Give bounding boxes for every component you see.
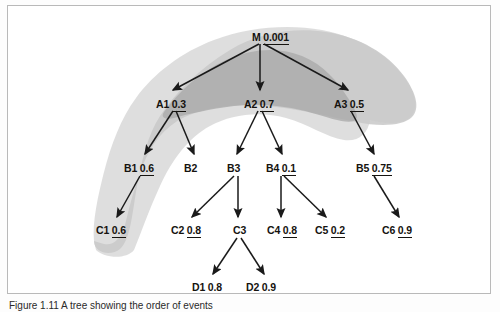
tree-node-m-label: M <box>252 31 261 43</box>
tree-node-b2-label: B2 <box>184 162 197 174</box>
tree-node-b5-value: 0.75 <box>372 162 392 176</box>
figure-frame: M0.001 A10.3 A20.7 A30.5 B10.6 B2 B3 B40… <box>7 5 491 294</box>
tree-node-b1-label: B1 <box>124 162 137 174</box>
tree-diagram <box>8 6 490 293</box>
tree-node-b5-label: B5 <box>356 162 369 174</box>
tree-node-d1-label: D1 <box>192 281 205 293</box>
tree-node-a1-label: A1 <box>156 98 169 110</box>
tree-node-b3[interactable]: B3 <box>227 163 240 174</box>
tree-node-c4-label: C4 <box>267 224 280 236</box>
edge-group-c <box>213 238 264 274</box>
tree-node-c3-label: C3 <box>233 224 246 236</box>
tree-node-b5[interactable]: B50.75 <box>356 163 392 174</box>
tree-node-a3-label: A3 <box>334 98 347 110</box>
tree-node-c6[interactable]: C60.9 <box>382 225 412 236</box>
tree-node-a2-value: 0.7 <box>260 98 274 112</box>
tree-node-a2[interactable]: A20.7 <box>244 99 274 110</box>
tree-node-a2-label: A2 <box>244 98 257 110</box>
tree-node-c4-value: 0.8 <box>283 224 297 238</box>
edge-a2-b4 <box>262 111 282 154</box>
tree-node-c2-value: 0.8 <box>187 224 201 238</box>
tree-node-b3-label: B3 <box>227 162 240 174</box>
tree-node-a3[interactable]: A30.5 <box>334 99 364 110</box>
tree-node-c3[interactable]: C3 <box>233 225 246 236</box>
tree-node-c6-value: 0.9 <box>398 224 412 238</box>
edge-b5-c6 <box>374 176 399 217</box>
figure-caption: Figure 1.11 A tree showing the order of … <box>9 300 479 312</box>
tree-node-c1[interactable]: C10.6 <box>96 225 126 236</box>
tree-node-b1-value: 0.6 <box>140 162 154 176</box>
tree-node-a1[interactable]: A10.3 <box>156 99 186 110</box>
edge-a2-b3 <box>237 111 258 154</box>
tree-node-c1-label: C1 <box>96 224 109 236</box>
tree-node-c4[interactable]: C40.8 <box>267 225 297 236</box>
edge-c3-d2 <box>241 238 264 274</box>
tree-node-d1[interactable]: D10.8 <box>192 282 222 293</box>
tree-node-c6-label: C6 <box>382 224 395 236</box>
tree-node-a3-value: 0.5 <box>350 98 364 112</box>
tree-node-m-value: 0.001 <box>263 31 289 45</box>
tree-node-c5[interactable]: C50.2 <box>315 225 345 236</box>
tree-node-c5-value: 0.2 <box>331 224 345 238</box>
tree-node-d2-value: 0.9 <box>262 281 276 294</box>
edge-c3-d1 <box>213 238 237 274</box>
tree-node-c5-label: C5 <box>315 224 328 236</box>
tree-node-d1-value: 0.8 <box>208 281 222 294</box>
tree-node-m[interactable]: M0.001 <box>252 32 289 43</box>
edge-b3-c2 <box>192 176 234 217</box>
edge-b4-c5 <box>284 176 326 217</box>
figure-page: M0.001 A10.3 A20.7 A30.5 B10.6 B2 B3 B40… <box>0 0 500 312</box>
tree-node-b4[interactable]: B40.1 <box>266 163 296 174</box>
tree-node-c1-value: 0.6 <box>112 224 126 238</box>
tree-node-c2[interactable]: C20.8 <box>171 225 201 236</box>
tree-node-b4-value: 0.1 <box>282 162 296 176</box>
tree-node-b4-label: B4 <box>266 162 279 174</box>
tree-node-d2[interactable]: D20.9 <box>246 282 276 293</box>
tree-node-b2[interactable]: B2 <box>184 163 197 174</box>
tree-node-c2-label: C2 <box>171 224 184 236</box>
tree-node-d2-label: D2 <box>246 281 259 293</box>
tree-node-a1-value: 0.3 <box>172 98 186 112</box>
tree-node-b1[interactable]: B10.6 <box>124 163 154 174</box>
